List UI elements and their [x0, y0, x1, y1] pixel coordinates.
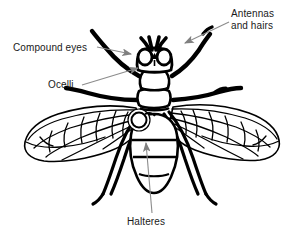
- leader-line-compound-eyes: [97, 47, 131, 54]
- head: [137, 48, 172, 72]
- fly-anatomy-diagram: Antennasand hairs Compound eyes Ocelli H…: [0, 0, 303, 240]
- fly-illustration: [0, 0, 303, 240]
- label-antennas-line2: and hairs: [231, 20, 273, 31]
- leg-foreleg-left: [92, 31, 139, 76]
- thorax-scutellum: [138, 89, 171, 108]
- leg-midleg-right: [173, 88, 241, 100]
- label-compound-eyes: Compound eyes: [13, 42, 87, 54]
- label-ocelli: Ocelli: [48, 79, 74, 91]
- label-antennas-and-hairs: Antennasand hairs: [231, 8, 274, 31]
- leader-line-ocelli: [82, 68, 138, 85]
- label-halteres: Halteres: [127, 216, 165, 228]
- label-antennas-line1: Antennas: [231, 8, 274, 19]
- leg-midleg-left: [66, 88, 137, 100]
- leg-foreleg-right: [172, 27, 212, 76]
